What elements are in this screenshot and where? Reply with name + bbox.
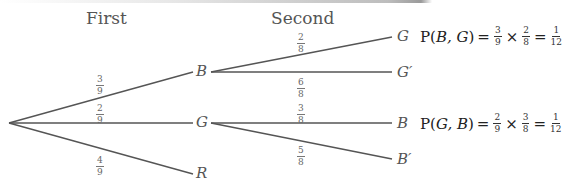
formula-P-B-G: P(B, G) = 39 × 28 = 112 [420,26,563,47]
prob-first-B: 3 9 [96,75,104,96]
node-second-G: G [397,29,409,44]
column-header-second: Second [271,8,334,28]
node-first-R: R [196,166,207,181]
column-header-first: First [86,8,127,28]
formula-P-G-B: P(G, B) = 29 × 38 = 112 [420,113,562,134]
node-first-B: B [196,64,207,79]
formula-2-factor-b: 38 [522,113,530,134]
node-second-B: B [397,116,408,131]
node-second-Bprime: B′ [397,152,411,167]
formula-1-factor-a: 39 [494,26,502,47]
formula-1-factor-b: 28 [522,26,530,47]
formula-2-factor-a: 29 [493,113,501,134]
prob-second-B-Gprime: 6 8 [297,78,305,99]
prob-second-B-G: 2 8 [297,33,305,54]
node-first-G: G [196,115,208,130]
formula-1-result: 112 [551,26,562,47]
prob-second-G-B: 3 8 [297,104,305,125]
prob-second-G-Bprime: 5 8 [297,146,305,167]
formula-2-result: 112 [550,113,561,134]
prob-first-R: 4 9 [96,156,104,177]
prob-first-G: 2 9 [96,104,104,125]
node-second-Gprime: G′ [397,65,412,80]
